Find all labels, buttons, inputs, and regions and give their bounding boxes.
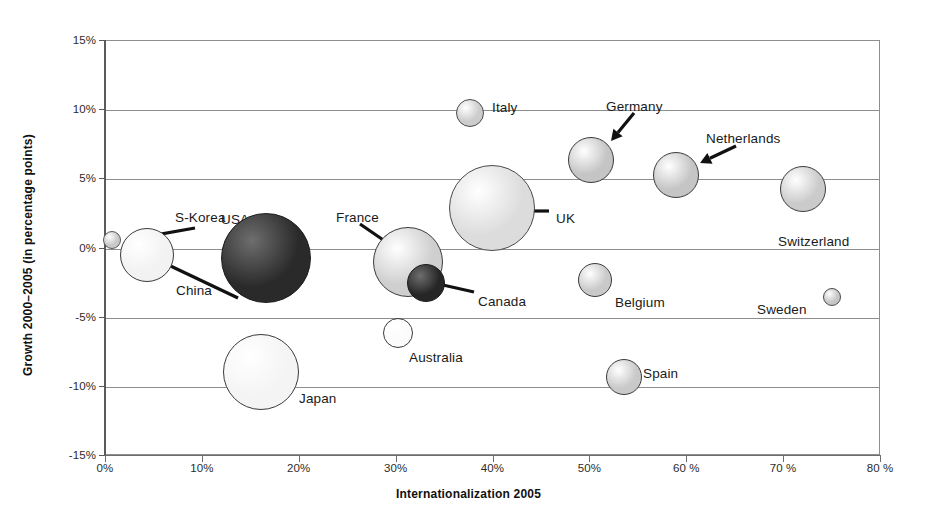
bubble-germany[interactable] xyxy=(568,137,614,183)
x-axis-title: Internationalization 2005 xyxy=(0,487,937,501)
y-tick-mark-1 xyxy=(99,109,105,110)
y-tick-label-4: -5% xyxy=(52,311,96,323)
y-tick-mark-4 xyxy=(99,317,105,318)
y-tick-mark-2 xyxy=(99,178,105,179)
bubble-s-korea[interactable] xyxy=(103,231,121,249)
x-tick-label-5: 50% xyxy=(578,462,601,474)
bubble-chart: 15%10%5%0%-5%-10%-15% 0%10%20%30%40%50%6… xyxy=(0,0,937,522)
point-label-uk: UK xyxy=(556,211,575,226)
bubble-sweden[interactable] xyxy=(823,288,841,306)
bubble-uk[interactable] xyxy=(449,165,535,251)
x-tick-label-3: 30% xyxy=(384,462,407,474)
y-tick-mark-3 xyxy=(99,248,105,249)
x-tick-label-4: 40% xyxy=(481,462,504,474)
point-label-canada: Canada xyxy=(478,294,526,309)
bubble-china[interactable] xyxy=(120,228,174,282)
y-tick-mark-0 xyxy=(99,40,105,41)
point-label-japan: Japan xyxy=(299,391,337,406)
point-label-germany: Germany xyxy=(606,99,663,114)
x-tick-label-6: 60 % xyxy=(673,462,700,474)
point-label-france: France xyxy=(336,210,379,225)
point-label-switzerland: Switzerland xyxy=(778,234,849,249)
y-axis-title: Growth 2000–2005 (in percentage points) xyxy=(21,65,35,445)
bubble-australia[interactable] xyxy=(383,318,413,348)
bubble-japan[interactable] xyxy=(223,334,299,410)
bubble-usa[interactable] xyxy=(221,213,311,303)
point-label-s-korea: S-Korea xyxy=(175,210,226,225)
y-tick-label-5: -10% xyxy=(52,380,96,392)
point-label-australia: Australia xyxy=(409,350,463,365)
bubble-canada[interactable] xyxy=(407,264,445,302)
point-label-sweden: Sweden xyxy=(757,302,807,317)
bubble-italy[interactable] xyxy=(456,99,484,127)
point-label-netherlands: Netherlands xyxy=(706,131,780,146)
x-tick-label-8: 80 % xyxy=(867,462,894,474)
x-tick-label-2: 20% xyxy=(287,462,310,474)
gridline-y-4 xyxy=(106,318,879,319)
bubble-netherlands[interactable] xyxy=(653,152,699,198)
bubble-switzerland[interactable] xyxy=(780,166,826,212)
point-label-italy: Italy xyxy=(492,100,518,115)
y-tick-label-0: 15% xyxy=(52,34,96,46)
y-tick-mark-5 xyxy=(99,386,105,387)
x-tick-label-7: 70 % xyxy=(770,462,797,474)
bubble-spain[interactable] xyxy=(606,359,642,395)
y-tick-label-6: -15% xyxy=(52,449,96,461)
gridline-y-5 xyxy=(106,387,879,388)
point-label-china: China xyxy=(176,283,212,298)
y-tick-label-3: 0% xyxy=(52,242,96,254)
bubble-belgium[interactable] xyxy=(578,263,612,297)
y-tick-label-2: 5% xyxy=(52,172,96,184)
y-tick-label-1: 10% xyxy=(52,103,96,115)
point-label-spain: Spain xyxy=(643,366,678,381)
point-label-belgium: Belgium xyxy=(615,295,665,310)
x-tick-label-0: 0% xyxy=(97,462,114,474)
x-tick-label-1: 10% xyxy=(190,462,213,474)
